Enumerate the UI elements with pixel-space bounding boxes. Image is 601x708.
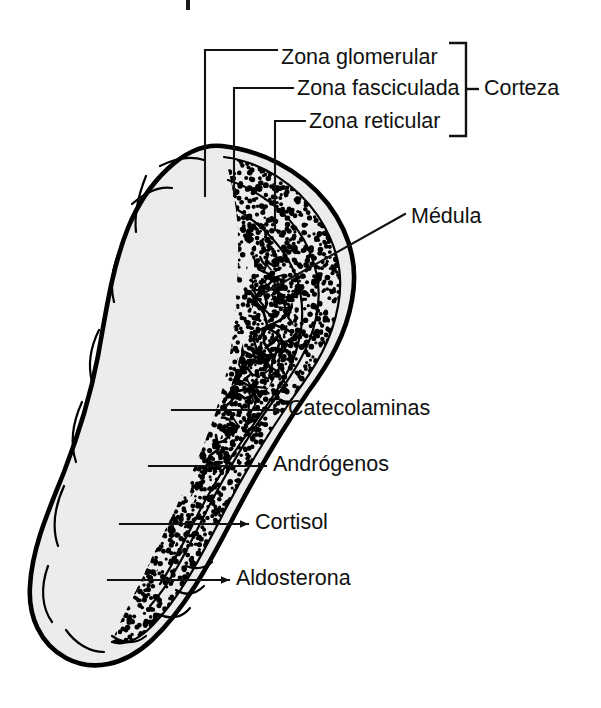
label-zona-reticular: Zona reticular — [309, 109, 440, 133]
label-zona-fasciculada: Zona fasciculada — [297, 76, 460, 100]
label-androgenos: Andrógenos — [273, 452, 389, 476]
label-cortisol: Cortisol — [255, 510, 328, 534]
label-medula: Médula — [411, 204, 482, 228]
label-aldosterona: Aldosterona — [236, 566, 351, 590]
label-catecolaminas: Catecolaminas — [288, 396, 430, 420]
label-corteza: Corteza — [484, 76, 559, 100]
diagram-canvas: Zona glomerular Zona fasciculada Zona re… — [0, 0, 601, 708]
label-zona-glomerular: Zona glomerular — [281, 45, 438, 69]
scan-artifact-mark — [186, 0, 190, 10]
adrenal-gland-figure: Zona glomerular Zona fasciculada Zona re… — [0, 0, 601, 708]
